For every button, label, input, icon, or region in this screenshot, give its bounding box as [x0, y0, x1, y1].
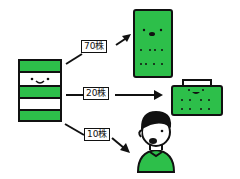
stock-stack-icon	[19, 60, 61, 121]
tall-green-box-icon	[134, 10, 172, 77]
arrowhead-20-icon	[154, 90, 163, 100]
green-case-box-icon	[172, 80, 222, 115]
arrowhead-10-icon	[120, 143, 130, 153]
allocation-label-10: 10株	[84, 128, 110, 141]
allocation-label-20: 20株	[83, 87, 109, 100]
diagram-canvas	[0, 0, 240, 179]
allocation-label-70: 70株	[81, 40, 107, 53]
